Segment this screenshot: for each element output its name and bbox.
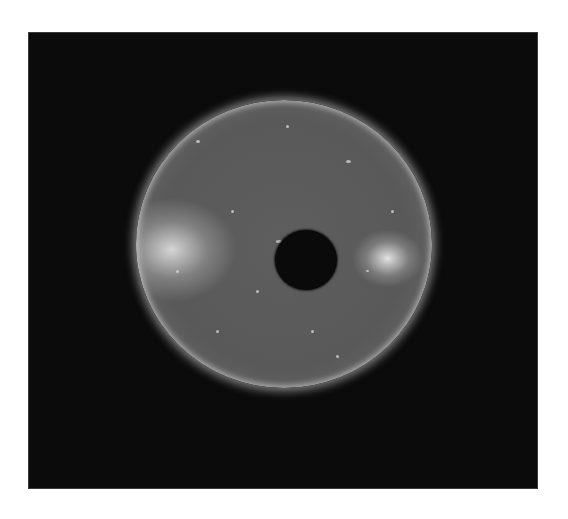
bright-point [231, 210, 234, 213]
bright-point [256, 290, 259, 293]
bright-point [336, 355, 339, 358]
solar-image-frame [29, 33, 537, 488]
bright-point [366, 270, 369, 272]
bright-point [391, 210, 394, 213]
bright-point [311, 330, 314, 333]
bright-point [346, 160, 351, 163]
bright-point [176, 270, 179, 273]
bright-point [196, 140, 200, 143]
bright-point [216, 330, 219, 333]
occulting-disk [275, 230, 337, 290]
bright-point [286, 125, 289, 128]
